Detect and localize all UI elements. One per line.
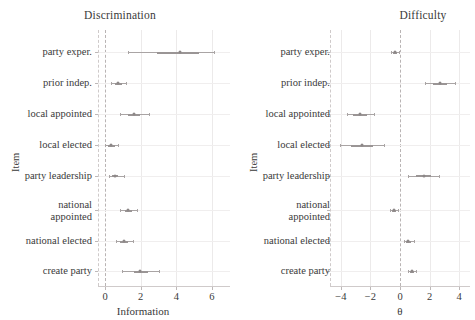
gridline-vertical — [370, 30, 371, 286]
gridline-vertical — [430, 30, 431, 286]
panel-discrimination: Discrimination Item Information — [0, 0, 237, 320]
y-tick-mark — [95, 210, 98, 211]
x-axis-title-discrimination: Information — [117, 305, 170, 317]
point-estimate — [359, 113, 362, 116]
error-bar-cap — [384, 144, 385, 147]
error-bar-cap — [455, 82, 456, 85]
x-axis-title-difficulty: θ — [397, 305, 402, 317]
point-estimate — [410, 270, 413, 273]
item-label-party-leadership: party leadership — [263, 170, 330, 182]
y-tick-mark — [95, 83, 98, 84]
error-bar-cap — [128, 51, 129, 54]
gridline-horizontal — [330, 176, 470, 177]
error-bar-cap — [105, 144, 106, 147]
error-bar-cap — [408, 270, 409, 273]
x-tick-label: 2 — [138, 291, 143, 302]
x-tick-mark — [459, 287, 460, 290]
error-bar-cap — [124, 175, 125, 178]
gridline-horizontal — [330, 241, 470, 242]
item-label-create-party: create party — [43, 265, 92, 277]
error-bar-cap — [408, 175, 409, 178]
point-estimate — [113, 174, 116, 177]
item-label-create-party: create party — [281, 265, 330, 277]
figure: Discrimination Item Information Difficul… — [0, 0, 475, 320]
x-tick-label: 0 — [397, 291, 402, 302]
x-tick-label: 2 — [427, 291, 432, 302]
y-tick-mark — [95, 114, 98, 115]
x-tick-mark — [212, 287, 213, 290]
error-bar-cap — [159, 270, 160, 273]
panel-title-discrimination: Discrimination — [55, 9, 185, 21]
point-estimate — [393, 51, 396, 54]
item-label-party-exper-: party exper. — [42, 46, 92, 58]
error-bar-cap — [133, 240, 134, 243]
gridline-vertical — [141, 30, 142, 286]
x-tick-mark — [341, 287, 342, 290]
y-tick-mark — [95, 52, 98, 53]
item-label-local-elected: local elected — [39, 139, 92, 151]
x-tick-mark — [430, 287, 431, 290]
panel-difficulty: Difficulty Item θ — [238, 0, 475, 320]
error-bar-cap — [111, 82, 112, 85]
item-label-local-appointed: local appointed — [28, 108, 92, 120]
zero-reference-line-0 — [105, 30, 106, 286]
gridline-horizontal — [330, 52, 470, 53]
y-tick-mark — [95, 145, 98, 146]
error-bar-cap — [122, 270, 123, 273]
gridline-horizontal — [98, 114, 230, 115]
point-estimate — [361, 144, 364, 147]
item-label-national-appointed: nationalappointed — [289, 199, 330, 222]
point-estimate — [122, 240, 125, 243]
gridline-vertical — [459, 30, 460, 286]
x-tick-label: −2 — [365, 291, 376, 302]
error-bar-cap — [214, 51, 215, 54]
error-bar-cap — [416, 270, 417, 273]
x-tick-mark — [105, 287, 106, 290]
gridline-vertical — [212, 30, 213, 286]
x-tick-label: −4 — [335, 291, 346, 302]
item-label-national-appointed: nationalappointed — [51, 199, 92, 222]
item-label-national-elected: national elected — [264, 235, 330, 247]
x-axis-line — [330, 286, 470, 287]
point-estimate — [393, 209, 396, 212]
point-estimate — [438, 82, 441, 85]
item-label-national-elected: national elected — [26, 235, 92, 247]
error-bar-cap — [126, 82, 127, 85]
gridline-vertical — [341, 30, 342, 286]
error-bar-cap — [347, 113, 348, 116]
point-estimate — [127, 209, 130, 212]
gridline-horizontal — [98, 210, 230, 211]
x-tick-mark — [176, 287, 177, 290]
point-estimate — [138, 270, 141, 273]
point-estimate — [110, 144, 113, 147]
y-tick-mark — [95, 241, 98, 242]
y-tick-mark — [95, 271, 98, 272]
item-label-prior-indep-: prior indep. — [43, 77, 92, 89]
error-bar-cap — [149, 113, 150, 116]
error-bar-cap — [398, 209, 399, 212]
error-bar-cap — [120, 209, 121, 212]
point-estimate — [132, 113, 135, 116]
x-axis-line — [98, 286, 230, 287]
y-axis-line — [330, 30, 331, 286]
x-tick-label: 4 — [174, 291, 179, 302]
error-bar-cap — [404, 240, 405, 243]
item-label-local-elected: local elected — [277, 139, 330, 151]
gridline-horizontal — [98, 271, 230, 272]
y-tick-mark — [95, 176, 98, 177]
error-bar-cap — [439, 175, 440, 178]
x-tick-label: 6 — [209, 291, 214, 302]
error-bar-cap — [120, 113, 121, 116]
error-bar-cap — [118, 144, 119, 147]
error-bar-cap — [109, 175, 110, 178]
x-tick-mark — [370, 287, 371, 290]
error-bar-cap — [399, 51, 400, 54]
point-estimate — [407, 240, 410, 243]
error-bar-cap — [137, 209, 138, 212]
zero-reference-line-1 — [400, 30, 401, 286]
error-bar-cap — [340, 144, 341, 147]
point-estimate — [178, 51, 181, 54]
error-bar-cap — [374, 113, 375, 116]
item-label-local-appointed: local appointed — [266, 108, 330, 120]
gridline-vertical — [176, 30, 177, 286]
